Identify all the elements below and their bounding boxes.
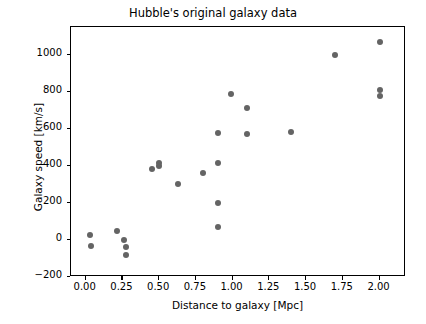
data-point	[114, 228, 120, 234]
data-point	[215, 130, 221, 136]
y-tick-label: 400	[0, 158, 62, 169]
x-tick-label: 0.00	[65, 281, 105, 292]
x-tick-mark	[268, 276, 269, 280]
data-point	[175, 181, 181, 187]
data-point	[288, 129, 294, 135]
y-tick-label: 600	[0, 121, 62, 132]
x-tick-label: 0.50	[138, 281, 178, 292]
figure-canvas: Hubble's original galaxy data Distance t…	[0, 0, 426, 324]
x-tick-mark	[158, 276, 159, 280]
scatter-points-layer	[71, 27, 404, 275]
y-tick-mark	[67, 91, 71, 92]
data-point	[377, 39, 383, 45]
y-tick-mark	[67, 276, 71, 277]
data-point	[149, 166, 155, 172]
y-tick-mark	[67, 202, 71, 203]
x-axis-label: Distance to galaxy [Mpc]	[70, 299, 405, 311]
data-point	[88, 243, 94, 249]
y-tick-label: 1000	[0, 47, 62, 58]
data-point	[121, 237, 127, 243]
x-tick-label: 2.00	[359, 281, 399, 292]
y-tick-label: −200	[0, 269, 62, 280]
data-point	[377, 87, 383, 93]
x-tick-mark	[305, 276, 306, 280]
plot-area	[70, 26, 405, 276]
data-point	[215, 160, 221, 166]
y-tick-label: 200	[0, 195, 62, 206]
y-tick-mark	[67, 128, 71, 129]
data-point	[332, 52, 338, 58]
x-tick-label: 1.75	[322, 281, 362, 292]
page-title: Hubble's original galaxy data	[0, 6, 426, 20]
x-tick-mark	[195, 276, 196, 280]
data-point	[87, 232, 93, 238]
x-tick-mark	[379, 276, 380, 280]
x-tick-mark	[232, 276, 233, 280]
data-point	[228, 91, 234, 97]
x-tick-label: 1.50	[285, 281, 325, 292]
y-tick-label: 800	[0, 84, 62, 95]
x-tick-mark	[121, 276, 122, 280]
x-tick-label: 1.00	[212, 281, 252, 292]
y-tick-mark	[67, 239, 71, 240]
y-tick-label: 0	[0, 232, 62, 243]
data-point	[244, 105, 250, 111]
y-tick-mark	[67, 165, 71, 166]
x-tick-mark	[85, 276, 86, 280]
data-point	[123, 244, 129, 250]
data-point	[200, 170, 206, 176]
x-tick-label: 0.25	[101, 281, 141, 292]
data-point	[123, 252, 129, 258]
y-tick-mark	[67, 54, 71, 55]
x-tick-mark	[342, 276, 343, 280]
data-point	[377, 93, 383, 99]
x-tick-label: 1.25	[248, 281, 288, 292]
x-tick-label: 0.75	[175, 281, 215, 292]
data-point	[215, 200, 221, 206]
data-point	[215, 224, 221, 230]
data-point	[244, 131, 250, 137]
